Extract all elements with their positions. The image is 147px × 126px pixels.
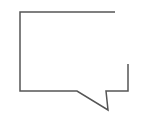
speech-bubble-icon (0, 0, 147, 126)
speech-bubble-outline (20, 12, 128, 110)
